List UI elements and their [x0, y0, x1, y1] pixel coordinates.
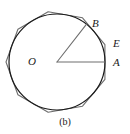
label-point-b: B: [92, 18, 99, 29]
label-point-a: A: [113, 57, 120, 68]
figure-background: [0, 0, 130, 134]
geometry-figure-panel: O B E A (b): [0, 0, 130, 134]
figure-caption: (b): [0, 116, 130, 127]
geometry-figure-canvas: [0, 0, 130, 134]
label-center-o: O: [28, 56, 36, 67]
label-point-e: E: [113, 38, 120, 49]
